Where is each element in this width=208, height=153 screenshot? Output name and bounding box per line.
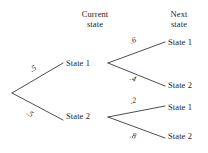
branch-root-to-state1: [12, 63, 63, 93]
header-next-state: Next state: [150, 9, 208, 29]
branch-state1-to-next1: [108, 42, 165, 63]
branch-root-to-state2: [12, 93, 63, 120]
branch-state2-to-next1: [108, 106, 165, 117]
node-next-state-2: State 2: [168, 80, 192, 90]
branch-state2-to-next2: [108, 117, 165, 138]
node-next-state-4: State 2: [168, 131, 192, 141]
node-next-state-1: State 1: [168, 37, 192, 47]
header-current-state: Current state: [58, 9, 132, 29]
node-next-state-3: State 1: [168, 102, 192, 112]
node-current-state-1: State 1: [66, 58, 90, 68]
probability-tree-diagram: Current state Next state State 1 State 2…: [0, 0, 208, 153]
node-current-state-2: State 2: [66, 111, 90, 121]
